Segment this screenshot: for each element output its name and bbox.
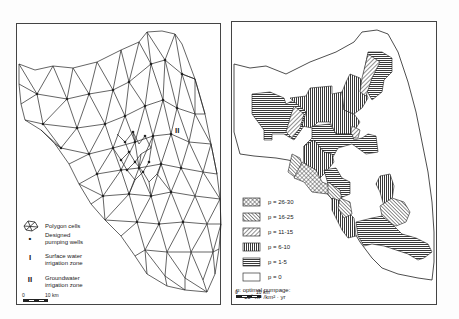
legend-p1-5: p = 1-5 — [268, 259, 287, 266]
horizontal-swatch — [243, 258, 260, 266]
diag-back-swatch — [243, 213, 260, 221]
legend-p26-30: p = 26-30 — [268, 199, 294, 206]
zone-ii-symbol: II — [24, 275, 36, 284]
mesh-map-panel: II Polygon cells • Designed pumping well… — [16, 23, 221, 305]
well-dot-icon: • — [24, 234, 36, 243]
legend-wells-l2: pumping wells — [45, 239, 83, 246]
zone-ii-label: II — [175, 126, 179, 135]
polygon-cells-icon — [23, 220, 39, 232]
vertical-swatch — [243, 243, 260, 251]
legend-wells-l1: Designed — [45, 232, 70, 239]
legend-groundwater-l2: irrigation zone — [45, 282, 83, 289]
scale-bar — [23, 299, 48, 302]
legend-groundwater-l1: Groundwater — [45, 275, 80, 282]
zone-i-symbol: I — [24, 253, 36, 262]
scale-start: 0 — [22, 292, 25, 298]
right-scale-bar — [236, 295, 261, 298]
scale-end: 10 km — [45, 292, 59, 298]
legend-p6-10: p = 6-10 — [268, 244, 290, 251]
legend-surface-l2: irrigation zone — [45, 260, 83, 267]
diag-fwd-swatch — [243, 228, 260, 236]
pumpage-map — [232, 22, 438, 306]
legend-p16-25: p = 16-25 — [268, 214, 294, 221]
blank-swatch — [243, 273, 260, 281]
legend-p11-15: p = 11-15 — [268, 229, 293, 236]
legend-polygon-cells: Polygon cells — [45, 223, 80, 230]
legend-surface-l1: Surface water — [45, 253, 82, 260]
crosshatch-swatch — [243, 198, 260, 206]
pumpage-map-panel: p = 26-30 p = 16-25 p = 11-15 p = 6-10 p… — [231, 21, 437, 305]
legend-p0: p = 0 — [268, 274, 282, 281]
